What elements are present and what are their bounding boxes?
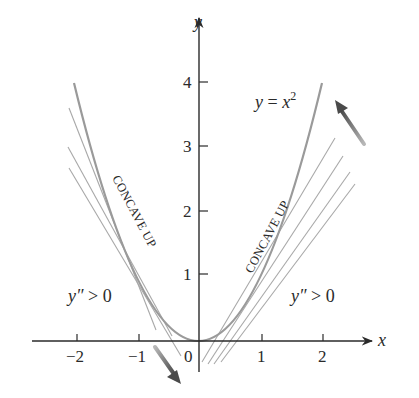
x-tick-label: −2 [66,347,84,366]
y-tick-label: 1 [183,265,192,284]
y-axis-label: y [192,12,202,32]
left-tangent-lines [68,108,181,356]
y-tick-label: 3 [183,137,192,156]
x-axis-label: x [377,330,386,350]
right-second-derivative-label: y″ > 0 [289,286,335,306]
x-tick-label: −1 [128,347,146,366]
left-second-derivative-label: y″ > 0 [66,286,112,306]
concavity-diagram: −2 −1 0 1 2 1 2 3 4 x y y = x2 CONCAVE U… [0,0,419,398]
y-axis-ticks [199,82,208,274]
x-tick-label: 1 [257,347,266,366]
y-tick-label: 2 [183,202,192,221]
x-tick-label: 0 [184,347,193,366]
tangent-line [208,156,343,364]
upper-right-arrow-icon [335,100,364,144]
tangent-line [202,138,335,362]
lower-left-arrow-icon [155,347,181,384]
left-concave-up-label: CONCAVE UP [109,173,159,250]
x-tick-label: 2 [318,347,327,366]
curve-equation-label: y = x2 [253,89,296,112]
y-tick-label: 4 [183,73,192,92]
